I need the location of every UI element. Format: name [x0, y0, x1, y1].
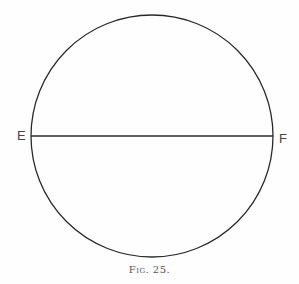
- point-label-f: F: [279, 131, 287, 146]
- circle-diagram: [0, 0, 299, 284]
- figure-caption: Fig. 25.: [0, 264, 299, 275]
- point-label-e: E: [17, 128, 26, 143]
- figure: E F Fig. 25.: [0, 0, 299, 284]
